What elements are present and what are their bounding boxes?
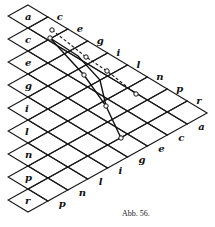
solid-curve — [50, 38, 106, 106]
grid-cell — [28, 155, 68, 178]
bottom-edge-label: p — [59, 198, 66, 209]
top-edge-label: g — [97, 35, 104, 46]
left-column-label: n — [25, 149, 32, 160]
left-column-label: r — [25, 195, 31, 206]
top-edge-label: c — [57, 11, 63, 22]
left-column-label: g — [25, 80, 32, 91]
open-circle-marker — [48, 36, 52, 40]
open-circle-marker — [105, 69, 109, 73]
open-circle-marker — [119, 136, 123, 140]
top-edge-label: p — [176, 83, 183, 94]
grid-cell — [68, 133, 108, 156]
bottom-edge-label: g — [138, 154, 145, 165]
left-column-label: p — [25, 172, 32, 183]
grid-cell — [48, 121, 88, 144]
bottom-edge-label: c — [178, 132, 184, 143]
top-edge-label: i — [117, 47, 121, 58]
grid-cell — [28, 109, 68, 132]
bottom-edge-label: e — [158, 143, 164, 154]
bottom-edge-label: a — [198, 121, 204, 132]
left-column-label: c — [25, 34, 31, 45]
open-circle-marker — [50, 28, 54, 32]
left-column-label: i — [25, 103, 29, 114]
grid-cell — [68, 110, 108, 133]
top-edge-label: e — [77, 23, 83, 34]
bottom-edge-label: n — [79, 187, 86, 198]
grid-cell — [48, 75, 88, 98]
top-edge-label: n — [156, 71, 163, 82]
bottom-edge-label: l — [99, 176, 103, 187]
open-circle-marker — [104, 104, 108, 108]
left-column-label: e — [25, 57, 31, 68]
grid-cell — [48, 98, 88, 121]
grid-cell — [108, 88, 148, 111]
figure-caption: Abb. 56. — [122, 209, 150, 218]
open-circle-marker — [82, 73, 86, 77]
grid-cell — [68, 87, 108, 110]
grid-cell — [128, 100, 168, 123]
grid-cell — [48, 144, 88, 167]
grid-cell — [88, 122, 128, 145]
open-circle-marker — [134, 92, 138, 96]
top-edge-label: r — [196, 95, 202, 106]
grid-cell — [28, 63, 68, 86]
lattice-diagram: acegilnprcegilnprpnligeca Abb. 56. — [0, 0, 215, 227]
open-circle-marker — [84, 55, 88, 59]
bottom-edge-label: i — [119, 165, 123, 176]
left-column-label: a — [25, 11, 31, 22]
top-edge-label: l — [136, 59, 140, 70]
left-column-label: l — [25, 126, 29, 137]
grid-cell — [28, 86, 68, 109]
grid-cell — [28, 132, 68, 155]
